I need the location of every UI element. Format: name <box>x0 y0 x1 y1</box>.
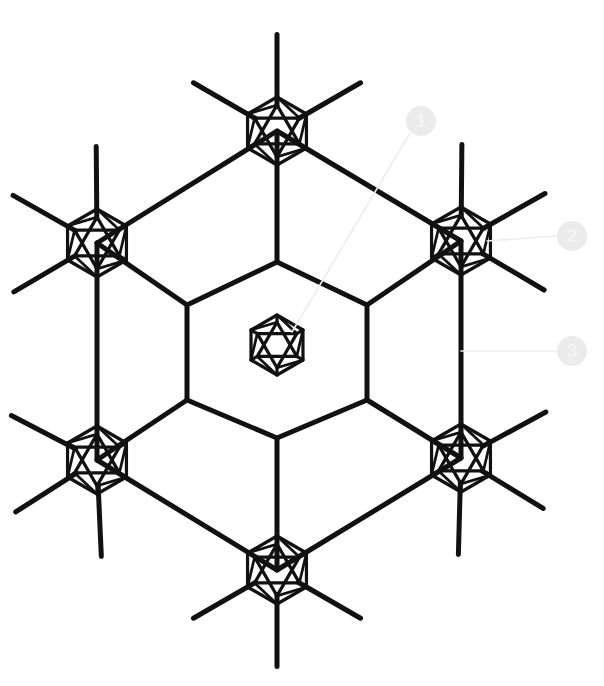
callout-badge-3[interactable]: 3 <box>557 336 587 366</box>
lattice-diagram-svg: 123 <box>0 0 604 686</box>
terminal-bond-n-lower-left-3 <box>11 416 75 449</box>
radial-spoke-3 <box>367 400 461 458</box>
callout-badge-label-1: 1 <box>416 110 427 131</box>
radial-spoke-2 <box>367 241 461 305</box>
callout-badge-2[interactable]: 2 <box>557 221 587 251</box>
terminal-bond-n-lower-left-1 <box>98 484 101 556</box>
inner-hexagon <box>187 262 367 438</box>
cluster-node-center <box>251 315 303 375</box>
callout-leader-1 <box>292 133 410 332</box>
radial-spoke-5 <box>97 400 187 460</box>
callout-badge-label-2: 2 <box>567 225 578 246</box>
radial-spoke-6 <box>97 243 187 305</box>
callout-badge-label-3: 3 <box>567 340 578 361</box>
callout-leader-2 <box>487 236 556 241</box>
lattice-diagram-root: 123 <box>0 0 604 686</box>
terminal-bond-n-lower-left-2 <box>16 473 77 512</box>
callout-badge-1[interactable]: 1 <box>406 106 436 136</box>
